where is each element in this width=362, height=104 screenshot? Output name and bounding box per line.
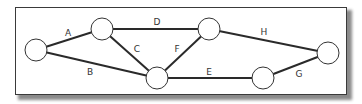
edge-label-a: A: [65, 28, 72, 38]
node-n6: [317, 42, 339, 64]
node-n4: [198, 18, 220, 40]
edge-label-d: D: [154, 17, 161, 27]
node-n3: [146, 67, 168, 89]
node-n2: [91, 18, 113, 40]
network-graph: ABCDEFGH: [0, 0, 362, 104]
edge-label-f: F: [174, 44, 179, 54]
node-n5: [252, 67, 274, 89]
edge-label-g: G: [296, 69, 303, 79]
edge-label-e: E: [206, 67, 212, 77]
edge-b: [36, 50, 157, 78]
node-n1: [25, 39, 47, 61]
edges-group: [36, 29, 328, 78]
edge-h: [209, 29, 328, 53]
edge-label-h: H: [261, 27, 268, 37]
edge-label-c: C: [134, 44, 140, 54]
edge-label-b: B: [87, 67, 93, 77]
